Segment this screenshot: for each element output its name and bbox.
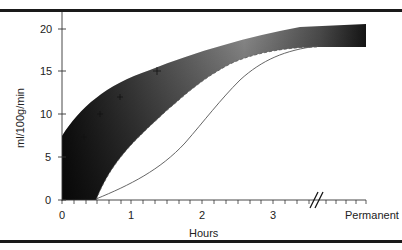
y-tick-label-10: 10 [40, 108, 52, 120]
x-tick-label-3: 3 [270, 209, 276, 221]
shaded-band-darkening [62, 24, 366, 200]
x-axis-title: Hours [189, 227, 219, 239]
x-tick-label-0: 0 [59, 209, 65, 221]
y-tick-label-20: 20 [40, 23, 52, 35]
y-tick-label-0: 0 [45, 194, 51, 206]
x-axis-ticks [62, 200, 366, 204]
x-tick-label-2: 2 [199, 209, 205, 221]
y-axis-title: ml/100g/min [14, 88, 26, 148]
chart-canvas: 0 5 10 15 20 ml/100g/min 0 1 2 3 Permane… [0, 0, 402, 250]
x-tick-label-permanent: Permanent [345, 209, 399, 221]
x-tick-label-1: 1 [128, 209, 134, 221]
y-tick-label-15: 15 [40, 65, 52, 77]
y-tick-label-5: 5 [45, 151, 51, 163]
